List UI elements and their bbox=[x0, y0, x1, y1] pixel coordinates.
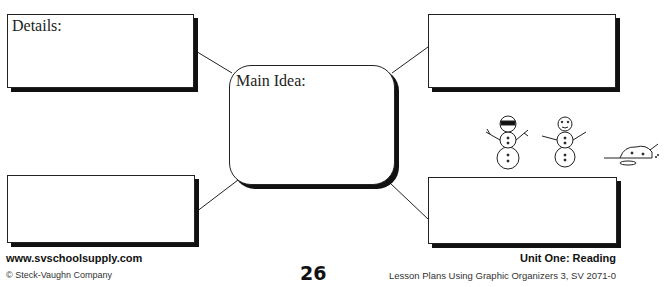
detail-box-bottom-right[interactable] bbox=[428, 177, 617, 244]
detail-box-label: Details: bbox=[12, 17, 62, 35]
snowman-melted-icon bbox=[604, 144, 659, 165]
snowman-smiling-icon bbox=[542, 117, 586, 167]
snowman-sunglasses-icon bbox=[486, 116, 528, 169]
main-idea-box[interactable]: Main Idea: bbox=[229, 65, 395, 185]
copyright-notice: © Steck-Vaughn Company bbox=[6, 270, 112, 280]
snowmen-illustration bbox=[480, 100, 660, 170]
unit-title: Unit One: Reading bbox=[520, 252, 616, 264]
detail-box-top-left[interactable]: Details: bbox=[7, 14, 194, 88]
website-url[interactable]: www.svschoolsupply.com bbox=[6, 252, 142, 264]
page-number: 26 bbox=[300, 262, 326, 284]
main-idea-label: Main Idea: bbox=[236, 72, 306, 90]
detail-box-top-right[interactable] bbox=[428, 14, 616, 88]
detail-box-bottom-left[interactable] bbox=[7, 175, 195, 243]
series-title: Lesson Plans Using Graphic Organizers 3,… bbox=[389, 270, 616, 281]
